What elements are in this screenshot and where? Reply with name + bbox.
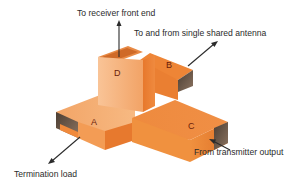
magic-tee-diagram: D B A C To receiver front end To and fro…	[0, 0, 303, 187]
port-label-d: D	[114, 69, 121, 78]
port-label-c: C	[188, 122, 195, 131]
label-transmitter: From transmitter output	[194, 148, 283, 157]
label-receiver: To receiver front end	[77, 9, 155, 18]
arrow-termination	[48, 137, 80, 164]
port-label-b: B	[166, 61, 172, 70]
arrow-antenna	[188, 41, 218, 66]
port-label-a: A	[91, 118, 97, 127]
label-termination: Termination load	[14, 170, 77, 179]
label-antenna: To and from single shared antenna	[134, 29, 266, 38]
